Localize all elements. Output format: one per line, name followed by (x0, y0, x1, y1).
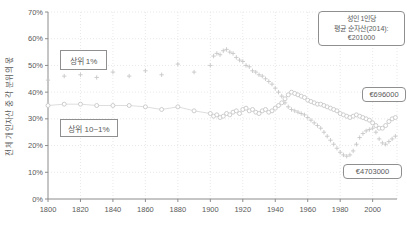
marker-circle (111, 104, 115, 108)
marker-plus (211, 54, 215, 58)
marker-plus (325, 134, 329, 138)
marker-plus (127, 74, 131, 78)
x-tick-label: 1940 (267, 205, 284, 214)
marker-plus (315, 123, 319, 127)
series-label-top1: 상위 1% (60, 50, 107, 70)
marker-plus (393, 134, 397, 138)
marker-plus (328, 138, 332, 142)
marker-plus (143, 69, 147, 73)
marker-plus (159, 73, 163, 77)
x-tick-label: 1800 (40, 205, 57, 214)
marker-plus (46, 78, 50, 82)
wealth-concentration-chart: 0%10%20%30%40%50%60%70%18001820184018601… (0, 0, 407, 233)
y-tick-label: 60% (28, 34, 43, 43)
marker-plus (78, 73, 82, 77)
value-label-top10-text: €696000 (369, 90, 398, 99)
marker-circle (160, 108, 164, 112)
x-tick-label: 1900 (202, 205, 219, 214)
y-tick-label: 20% (28, 141, 43, 150)
marker-circle (192, 109, 196, 113)
y-tick-label: 70% (28, 8, 43, 17)
legend-average-wealth: 성인 1인당 평균 순자산(2014): €201000 (318, 11, 405, 46)
x-tick-label: 1920 (234, 205, 251, 214)
marker-plus (267, 79, 271, 83)
marker-plus (312, 121, 316, 125)
x-tick-label: 1960 (299, 205, 316, 214)
value-label-top10: €696000 (362, 87, 406, 102)
marker-plus (319, 126, 323, 130)
marker-plus (94, 75, 98, 79)
value-label-top1: €4703000 (343, 164, 402, 179)
marker-plus (387, 139, 391, 143)
marker-plus (273, 86, 277, 90)
y-tick-label: 10% (28, 168, 43, 177)
marker-plus (111, 70, 115, 74)
legend-line-2: 평균 순자산(2014): (334, 24, 388, 34)
y-tick-label: 0% (32, 195, 43, 204)
legend-line-1: 성인 1인당 (347, 14, 377, 24)
marker-plus (286, 105, 290, 109)
marker-plus (62, 74, 66, 78)
y-axis-title: 전체 개인자산 중 각 분위의 몫 (3, 11, 15, 201)
value-label-top1-text: €4703000 (356, 167, 389, 176)
marker-plus (322, 130, 326, 134)
x-tick-label: 1880 (170, 205, 187, 214)
marker-circle (95, 104, 99, 108)
marker-circle (280, 101, 284, 105)
marker-plus (338, 150, 342, 154)
marker-plus (331, 142, 335, 146)
y-tick-label: 40% (28, 88, 43, 97)
x-tick-label: 1820 (72, 205, 89, 214)
y-tick-label: 30% (28, 114, 43, 123)
marker-circle (393, 116, 397, 120)
marker-circle (176, 105, 180, 109)
x-tick-label: 1860 (137, 205, 154, 214)
legend-line-3: €201000 (348, 33, 375, 43)
marker-circle (143, 105, 147, 109)
marker-circle (46, 104, 50, 108)
x-tick-label: 1840 (105, 205, 122, 214)
x-tick-label: 1980 (332, 205, 349, 214)
marker-circle (127, 104, 131, 108)
x-tick-label: 2000 (364, 205, 381, 214)
marker-plus (270, 82, 274, 86)
marker-plus (276, 90, 280, 94)
marker-plus (192, 70, 196, 74)
marker-plus (377, 137, 381, 141)
marker-plus (208, 63, 212, 67)
marker-plus (357, 135, 361, 139)
marker-circle (283, 97, 287, 101)
marker-plus (176, 62, 180, 66)
marker-circle (62, 102, 66, 106)
marker-plus (351, 149, 355, 153)
series-label-top10: 상위 10~1% (60, 119, 118, 137)
marker-plus (335, 146, 339, 150)
marker-circle (78, 102, 82, 106)
marker-plus (263, 77, 267, 81)
marker-plus (390, 137, 394, 141)
marker-circle (384, 124, 388, 128)
y-tick-label: 50% (28, 61, 43, 70)
series-label-top1-text: 상위 1% (70, 55, 98, 66)
marker-plus (234, 55, 238, 59)
marker-plus (361, 131, 365, 135)
series-label-top10-text: 상위 10~1% (68, 123, 109, 134)
marker-plus (374, 130, 378, 134)
marker-circle (238, 112, 242, 116)
